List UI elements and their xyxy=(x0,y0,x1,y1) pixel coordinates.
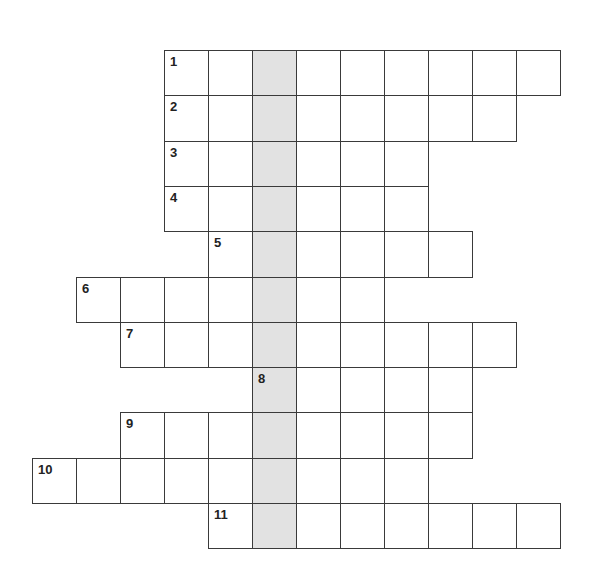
crossword-cell-highlighted[interactable] xyxy=(252,458,297,504)
crossword-cell-highlighted[interactable] xyxy=(252,186,297,232)
crossword-cell[interactable]: 3 xyxy=(164,141,209,187)
crossword-cell[interactable] xyxy=(384,458,429,504)
crossword-cell[interactable] xyxy=(208,95,253,142)
crossword-cell[interactable] xyxy=(340,231,385,278)
crossword-cell[interactable]: 11 xyxy=(208,503,253,549)
crossword-cell[interactable] xyxy=(428,322,473,368)
crossword-cell[interactable] xyxy=(340,277,385,323)
clue-number: 4 xyxy=(170,191,177,204)
crossword-cell[interactable] xyxy=(428,412,473,459)
crossword-cell[interactable] xyxy=(296,50,341,96)
crossword-cell[interactable] xyxy=(384,141,429,187)
crossword-cell-highlighted[interactable] xyxy=(252,50,297,96)
clue-number: 11 xyxy=(214,508,228,521)
clue-number: 9 xyxy=(126,417,133,430)
crossword-cell[interactable]: 10 xyxy=(32,458,77,504)
crossword-cell-highlighted[interactable] xyxy=(252,141,297,187)
crossword-cell[interactable]: 5 xyxy=(208,231,253,278)
crossword-cell[interactable] xyxy=(428,95,473,142)
crossword-cell[interactable] xyxy=(340,322,385,368)
crossword-cell[interactable] xyxy=(340,50,385,96)
crossword-cell[interactable] xyxy=(384,322,429,368)
crossword-cell[interactable] xyxy=(340,95,385,142)
crossword-cell[interactable] xyxy=(340,503,385,549)
crossword-cell-highlighted[interactable] xyxy=(252,277,297,323)
crossword-cell[interactable]: 7 xyxy=(120,322,165,368)
crossword-cell-highlighted[interactable] xyxy=(252,503,297,549)
crossword-cell[interactable] xyxy=(384,95,429,142)
clue-number: 1 xyxy=(170,55,177,68)
crossword-cell[interactable] xyxy=(296,186,341,232)
crossword-cell[interactable] xyxy=(296,322,341,368)
crossword-cell[interactable] xyxy=(208,322,253,368)
crossword-cell[interactable] xyxy=(120,458,165,504)
clue-number: 7 xyxy=(126,327,133,340)
crossword-cell[interactable] xyxy=(516,503,561,549)
crossword-cell[interactable] xyxy=(296,231,341,278)
crossword-cell[interactable] xyxy=(516,50,561,96)
crossword-cell[interactable] xyxy=(164,458,209,504)
crossword-cell[interactable] xyxy=(340,141,385,187)
crossword-cell[interactable] xyxy=(428,50,473,96)
crossword-cell[interactable] xyxy=(340,186,385,232)
crossword-cell[interactable] xyxy=(296,277,341,323)
clue-number: 5 xyxy=(214,236,221,249)
crossword-cell[interactable] xyxy=(384,186,429,232)
crossword-cell[interactable] xyxy=(208,186,253,232)
crossword-cell[interactable] xyxy=(208,412,253,459)
crossword-cell[interactable] xyxy=(208,458,253,504)
crossword-cell[interactable] xyxy=(340,458,385,504)
crossword-cell[interactable] xyxy=(428,367,473,413)
crossword-cell[interactable] xyxy=(384,412,429,459)
crossword-cell[interactable] xyxy=(164,277,209,323)
crossword-cell[interactable] xyxy=(296,95,341,142)
crossword-cell[interactable] xyxy=(472,503,517,549)
crossword-cell[interactable] xyxy=(472,50,517,96)
crossword-cell[interactable]: 4 xyxy=(164,186,209,232)
crossword-cell[interactable] xyxy=(296,458,341,504)
crossword-cell-highlighted[interactable] xyxy=(252,412,297,459)
crossword-cell[interactable]: 9 xyxy=(120,412,165,459)
crossword-cell[interactable] xyxy=(472,95,517,142)
crossword-cell[interactable] xyxy=(384,503,429,549)
crossword-cell[interactable] xyxy=(76,458,121,504)
crossword-cell[interactable] xyxy=(340,412,385,459)
crossword-cell[interactable] xyxy=(296,503,341,549)
crossword-cell[interactable] xyxy=(384,231,429,278)
crossword-cell[interactable] xyxy=(120,277,165,323)
clue-number: 2 xyxy=(170,100,177,113)
clue-number: 8 xyxy=(258,372,265,385)
crossword-cell[interactable] xyxy=(208,277,253,323)
crossword-cell[interactable] xyxy=(472,322,517,368)
clue-number: 3 xyxy=(170,146,177,159)
crossword-cell[interactable] xyxy=(296,367,341,413)
crossword-cell-highlighted[interactable] xyxy=(252,231,297,278)
crossword-cell[interactable] xyxy=(428,503,473,549)
crossword-cell[interactable] xyxy=(208,50,253,96)
crossword-cell[interactable] xyxy=(296,412,341,459)
crossword-cell[interactable]: 6 xyxy=(76,277,121,323)
crossword-cell-highlighted[interactable] xyxy=(252,95,297,142)
crossword-grid: 1234567891011 xyxy=(0,0,599,585)
crossword-cell-highlighted[interactable] xyxy=(252,322,297,368)
crossword-cell-highlighted[interactable]: 8 xyxy=(252,367,297,413)
crossword-cell[interactable] xyxy=(164,412,209,459)
crossword-cell[interactable]: 2 xyxy=(164,95,209,142)
crossword-cell[interactable] xyxy=(340,367,385,413)
clue-number: 6 xyxy=(82,282,89,295)
clue-number: 10 xyxy=(38,463,52,476)
crossword-cell[interactable] xyxy=(164,322,209,368)
crossword-cell[interactable] xyxy=(384,50,429,96)
crossword-cell[interactable] xyxy=(428,231,473,278)
crossword-cell[interactable] xyxy=(296,141,341,187)
crossword-cell[interactable]: 1 xyxy=(164,50,209,96)
crossword-cell[interactable] xyxy=(208,141,253,187)
crossword-cell[interactable] xyxy=(384,367,429,413)
